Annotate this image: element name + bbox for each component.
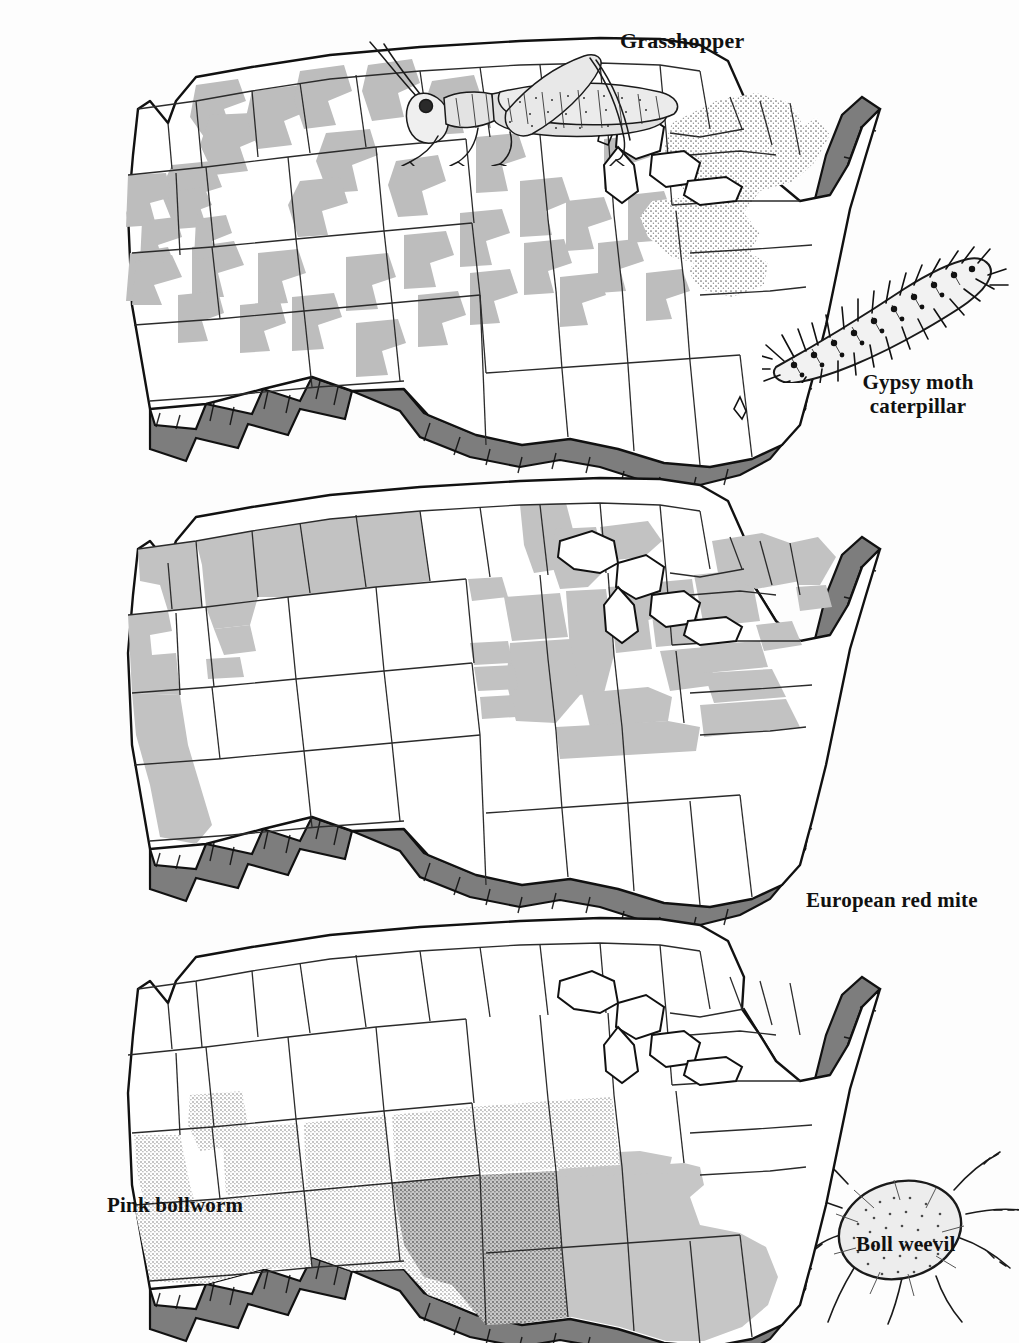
pest-distribution-figure: Grasshopper Gypsy moth caterpillar Europ… xyxy=(0,0,1019,1343)
map-panel-bottom xyxy=(0,880,1019,1343)
gypsy-moth-caterpillar-illustration xyxy=(762,233,1012,383)
grasshopper-illustration xyxy=(360,36,690,166)
label-grasshopper: Grasshopper xyxy=(620,29,744,54)
label-gypsy-moth-caterpillar: Gypsy moth caterpillar xyxy=(838,371,998,418)
bottom-map-svg xyxy=(0,880,1019,1343)
label-pink-bollworm: Pink bollworm xyxy=(107,1194,243,1218)
label-european-red-mite: European red mite xyxy=(806,889,978,913)
label-boll-weevil: Boll weevil xyxy=(856,1233,956,1257)
map-panel-top xyxy=(0,0,1019,500)
map-panel-middle xyxy=(0,440,1019,940)
